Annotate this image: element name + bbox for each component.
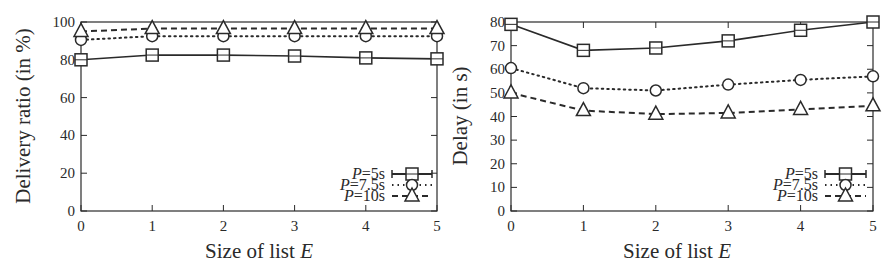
triangle-marker-icon: [576, 103, 590, 116]
x-tick-label: 3: [291, 218, 299, 234]
y-tick-label: 10: [490, 179, 505, 195]
x-tick-label: 5: [869, 218, 877, 234]
y-tick-label: 80: [490, 14, 505, 30]
legend-label: P=10s: [343, 187, 385, 204]
circle-marker-icon: [506, 63, 517, 74]
circle-marker-icon: [650, 85, 661, 96]
series-line: [511, 22, 873, 50]
x-tick-label: 5: [433, 218, 441, 234]
y-tick-label: 0: [68, 203, 76, 219]
x-axis-title: Size of list E: [623, 239, 731, 263]
y-axis-title: Delay (in s): [448, 66, 472, 165]
y-tick-label: 30: [490, 132, 505, 148]
series-p-10s: [74, 21, 444, 37]
delay-chart: Delay (in s) Size of list E 010203040506…: [448, 14, 880, 263]
legend: P=5sP=7.5sP=10s: [339, 165, 432, 204]
y-tick-label: 80: [60, 52, 75, 68]
x-tick-label: 4: [362, 218, 370, 234]
circle-marker-icon: [578, 83, 589, 94]
triangle-marker-icon: [649, 106, 663, 119]
chart-canvas: Delivery ratio (in %) Size of list E 020…: [0, 0, 896, 275]
circle-marker-icon: [868, 71, 879, 82]
series-p-7-5s: [76, 31, 443, 46]
x-tick-label: 0: [507, 218, 515, 234]
delivery-ratio-chart: Delivery ratio (in %) Size of list E 020…: [11, 14, 444, 263]
x-axis-ticks: 012345: [77, 22, 441, 234]
x-axis-ticks: 012345: [507, 22, 877, 234]
y-tick-label: 20: [490, 156, 505, 172]
circle-marker-icon: [723, 79, 734, 90]
triangle-marker-icon: [794, 101, 808, 114]
y-tick-label: 40: [490, 109, 505, 125]
series-line: [81, 36, 437, 40]
triangle-marker-icon: [721, 105, 735, 118]
data-series: [504, 16, 880, 119]
y-tick-label: 40: [60, 127, 75, 143]
x-tick-label: 1: [580, 218, 588, 234]
y-tick-label: 50: [490, 85, 505, 101]
figure: Delivery ratio (in %) Size of list E 020…: [0, 0, 896, 275]
legend-item: P=10s: [776, 187, 866, 204]
series-p-5s: [75, 49, 443, 66]
x-tick-label: 1: [148, 218, 156, 234]
x-tick-label: 2: [652, 218, 660, 234]
x-tick-label: 2: [220, 218, 228, 234]
x-tick-label: 4: [797, 218, 805, 234]
x-axis-title: Size of list E: [205, 239, 313, 263]
plot-frame: [511, 22, 873, 211]
legend-label: P=10s: [776, 187, 818, 204]
series-line: [511, 93, 873, 114]
x-tick-label: 0: [77, 218, 85, 234]
circle-marker-icon: [795, 74, 806, 85]
triangle-marker-icon: [74, 23, 88, 36]
series-p-7-5s: [506, 63, 879, 96]
triangle-legend-icon: [839, 188, 853, 201]
y-tick-label: 100: [53, 14, 76, 30]
series-line: [81, 29, 437, 32]
legend-item: P=10s: [343, 187, 432, 204]
y-tick-label: 60: [60, 90, 75, 106]
y-tick-label: 70: [490, 38, 505, 54]
data-series: [74, 21, 444, 66]
y-tick-label: 20: [60, 165, 75, 181]
series-line: [511, 68, 873, 90]
y-tick-label: 60: [490, 61, 505, 77]
y-tick-label: 0: [498, 203, 506, 219]
x-tick-label: 3: [724, 218, 732, 234]
series-line: [81, 55, 437, 60]
triangle-legend-icon: [405, 188, 419, 201]
triangle-marker-icon: [866, 98, 880, 111]
legend: P=5sP=7.5sP=10s: [772, 165, 866, 204]
series-p-10s: [504, 85, 880, 119]
triangle-marker-icon: [504, 85, 518, 98]
y-axis-title: Delivery ratio (in %): [11, 28, 35, 204]
